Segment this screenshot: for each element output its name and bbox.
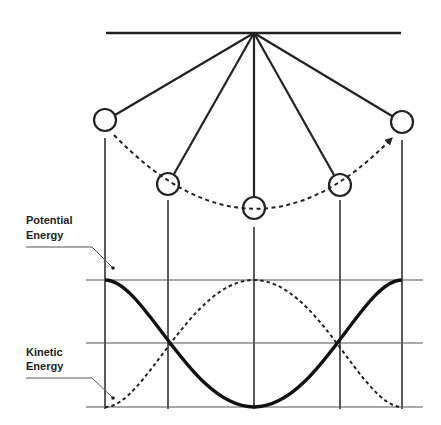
kinetic-leader-line	[26, 378, 113, 398]
string-left-extreme	[115, 33, 254, 115]
bob-left-extreme	[94, 109, 116, 131]
potential-label-line1: Potential	[26, 214, 72, 226]
kinetic-label-line2: Energy	[26, 360, 64, 372]
bob-left-mid	[157, 173, 179, 195]
kinetic-label-line1: Kinetic	[26, 346, 63, 358]
bob-bottom	[243, 197, 265, 219]
kinetic-leader-dot	[111, 396, 115, 400]
pendulum-energy-diagram: Potential Energy Kinetic Energy	[0, 0, 441, 425]
potential-leader-dot	[111, 266, 115, 270]
potential-leader-line	[26, 247, 113, 268]
pendulum-strings	[115, 33, 392, 197]
bob-right-extreme	[391, 111, 413, 133]
string-left-mid	[174, 33, 254, 174]
potential-label-line2: Energy	[26, 229, 64, 241]
kinetic-energy-label: Kinetic Energy	[26, 346, 115, 400]
bob-right-mid	[329, 174, 351, 196]
string-right-mid	[254, 33, 334, 175]
string-right-extreme	[254, 33, 392, 116]
potential-energy-label: Potential Energy	[26, 214, 115, 270]
